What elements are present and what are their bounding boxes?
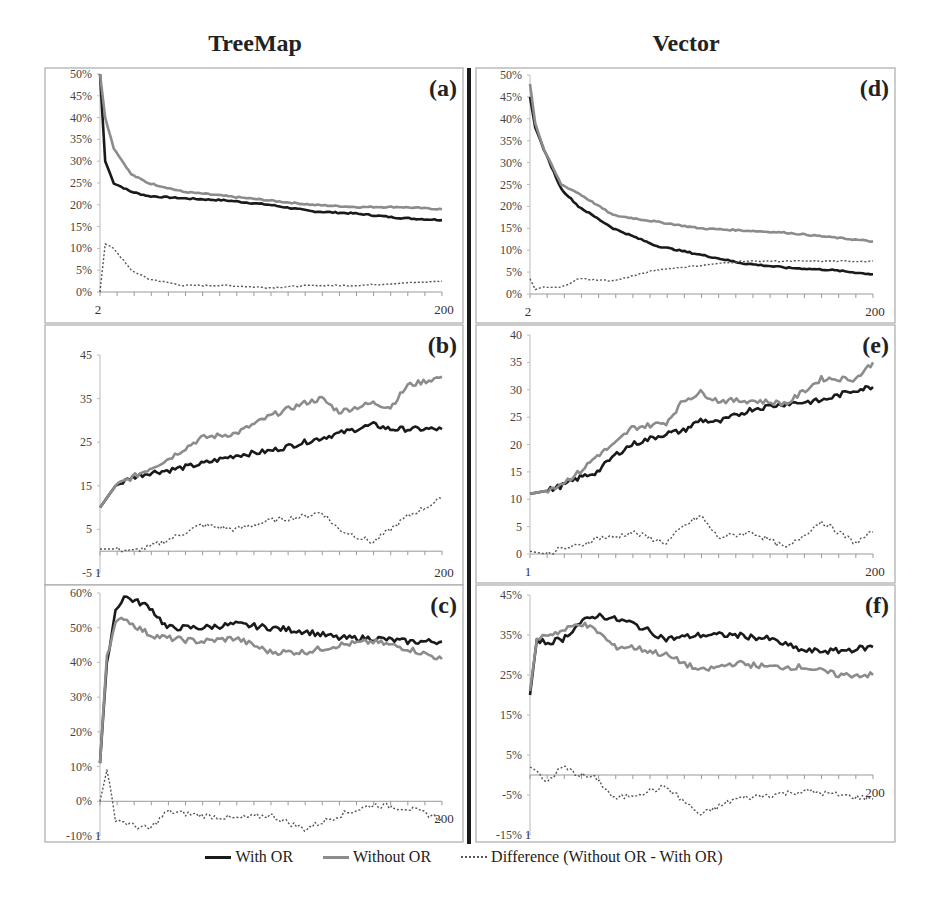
legend-item-difference: Difference (Without OR - With OR): [461, 848, 722, 866]
y-tick-label: 40%: [500, 112, 522, 126]
y-tick-label: 30%: [70, 690, 92, 704]
chart-panel-a: 0%5%10%15%20%25%30%35%40%45%50%2200(a): [45, 67, 463, 323]
y-tick-label: 20%: [70, 725, 92, 739]
y-tick-label: 15: [510, 465, 522, 479]
x-tick-label: 1: [525, 827, 532, 842]
y-tick-label: 45%: [500, 90, 522, 104]
panel-label: (c): [430, 592, 457, 618]
y-tick-label: 5%: [506, 265, 522, 279]
solid-gray-line-icon: [323, 856, 349, 859]
y-tick-label: 20%: [500, 199, 522, 213]
y-tick-label: 25%: [70, 176, 92, 190]
y-tick-label: 15%: [70, 220, 92, 234]
y-tick-label: 10%: [70, 760, 92, 774]
y-tick-label: 25: [510, 410, 522, 424]
y-tick-label: 35%: [500, 628, 522, 642]
x-tick-label: 200: [434, 302, 454, 317]
legend-item-without-or: Without OR: [323, 848, 431, 866]
y-tick-label: 45%: [500, 588, 522, 602]
chart-panel-c: -10%0%10%20%30%40%50%60%1200(c): [45, 585, 463, 843]
x-tick-label: 2: [525, 304, 532, 319]
y-tick-label: 35: [80, 392, 92, 406]
y-tick-label: 15: [80, 479, 92, 493]
solid-dark-line-icon: [205, 856, 231, 859]
y-tick-label: -5%: [502, 788, 522, 802]
y-tick-label: 35%: [70, 132, 92, 146]
y-tick-label: 15%: [500, 221, 522, 235]
y-tick-label: 50%: [500, 68, 522, 82]
y-tick-label: 20%: [70, 198, 92, 212]
chart-panel-d: 0%5%10%15%20%25%30%35%40%45%50%2200(d): [476, 68, 895, 323]
chart-panel-b: -55152535451200(b): [45, 325, 463, 585]
y-tick-label: 50%: [70, 67, 92, 81]
y-tick-label: 40%: [70, 111, 92, 125]
x-tick-label: 1: [95, 565, 102, 580]
y-tick-label: 40%: [70, 655, 92, 669]
panel-label: (f): [865, 592, 889, 618]
y-tick-label: -10%: [66, 829, 92, 843]
panel-label: (d): [860, 75, 889, 101]
x-tick-label: 200: [865, 564, 885, 579]
legend-item-with-or: With OR: [205, 848, 293, 866]
y-tick-label: 25%: [500, 178, 522, 192]
y-tick-label: 40: [510, 328, 522, 342]
panel-label: (b): [428, 332, 457, 358]
y-tick-label: 5: [516, 520, 522, 534]
y-tick-label: 0%: [506, 287, 522, 301]
legend: With OR Without OR Difference (Without O…: [0, 848, 928, 866]
dotted-line-icon: [461, 856, 487, 858]
y-tick-label: 0: [516, 547, 522, 561]
y-tick-label: 10%: [70, 241, 92, 255]
y-tick-label: 15%: [500, 708, 522, 722]
y-tick-label: 5: [86, 522, 92, 536]
panel-label: (e): [862, 332, 889, 358]
y-tick-label: 5%: [76, 263, 92, 277]
y-tick-label: 30%: [500, 156, 522, 170]
y-tick-label: 60%: [70, 586, 92, 600]
chart-grid: 0%5%10%15%20%25%30%35%40%45%50%2200(a)-5…: [0, 0, 928, 901]
y-tick-label: 0%: [76, 794, 92, 808]
x-tick-label: 1: [525, 564, 532, 579]
y-tick-label: 35: [510, 355, 522, 369]
y-tick-label: 25: [80, 435, 92, 449]
y-tick-label: 20: [510, 438, 522, 452]
y-tick-label: 10: [510, 492, 522, 506]
x-tick-label: 2: [95, 302, 102, 317]
chart-panel-e: 05101520253035401200(e): [476, 325, 895, 583]
y-tick-label: 0%: [76, 285, 92, 299]
y-tick-label: 30%: [70, 154, 92, 168]
y-tick-label: 35%: [500, 134, 522, 148]
y-tick-label: 45: [80, 348, 92, 362]
y-tick-label: 5%: [506, 748, 522, 762]
x-tick-label: 1: [95, 828, 102, 843]
y-tick-label: 50%: [70, 621, 92, 635]
x-tick-label: 200: [865, 304, 885, 319]
x-tick-label: 200: [434, 565, 454, 580]
y-tick-label: 45%: [70, 89, 92, 103]
chart-panel-f: -15%-5%5%15%25%35%45%1200(f): [476, 585, 895, 842]
y-tick-label: -5: [82, 566, 92, 580]
y-tick-label: 10%: [500, 243, 522, 257]
y-tick-label: -15%: [496, 828, 522, 842]
y-tick-label: 25%: [500, 668, 522, 682]
panel-label: (a): [429, 75, 457, 101]
y-tick-label: 30: [510, 383, 522, 397]
